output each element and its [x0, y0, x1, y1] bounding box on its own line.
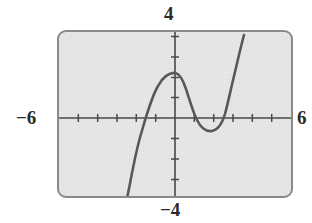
- plot-canvas: [59, 32, 291, 196]
- polynomial-curve: [128, 35, 245, 196]
- y-axis-min-label: −4: [160, 200, 180, 219]
- calculator-screen: [57, 30, 293, 198]
- graph-figure: 4 −4 −6 6: [0, 0, 312, 223]
- x-axis-max-label: 6: [297, 108, 307, 127]
- y-axis-max-label: 4: [164, 4, 174, 23]
- x-axis-min-label: −6: [16, 108, 36, 127]
